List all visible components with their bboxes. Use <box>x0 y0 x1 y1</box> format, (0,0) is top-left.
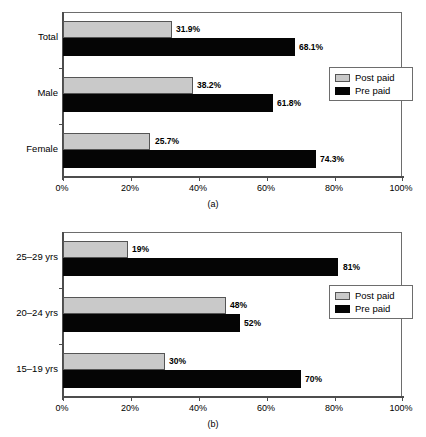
x-axis-label-b-0: 0% <box>55 404 68 413</box>
x-axis-label-b-100: 100% <box>389 404 412 413</box>
legend-item-post-paid-a[interactable]: Post paid <box>335 72 406 83</box>
x-axis-tick-b-60 <box>267 397 268 401</box>
plot-area-a: 31.9% 68.1% 38.2% 61.8% 25.7% 74.3% Post… <box>62 12 402 178</box>
x-axis-label-b-80: 80% <box>325 404 343 413</box>
category-label-15-19-yrs: 15–19 yrs <box>0 364 58 374</box>
category-label-total: Total <box>0 32 58 42</box>
bar-female-post-paid[interactable] <box>63 133 150 150</box>
x-axis-label-b-60: 60% <box>257 404 275 413</box>
chart-figure-b: 19% 81% 48% 52% 30% 70% Post paid <box>0 220 426 437</box>
x-axis-label-a-80: 80% <box>325 184 343 193</box>
pre-paid-swatch-icon <box>335 87 350 95</box>
y-axis-tick-a-2 <box>59 124 63 125</box>
category-label-female: Female <box>0 144 58 154</box>
bar-value-20-24-yrs-post-paid: 48% <box>230 301 247 310</box>
legend-label-pre-paid-a: Pre paid <box>355 86 390 96</box>
x-axis-tick-b-0 <box>63 397 64 401</box>
x-axis-tick-a-100 <box>402 177 403 181</box>
bar-value-15-19-yrs-post-paid: 30% <box>169 357 186 366</box>
x-axis-tick-b-80 <box>335 397 336 401</box>
bar-value-female-post-paid: 25.7% <box>155 137 179 146</box>
legend-label-post-paid-a: Post paid <box>355 73 395 83</box>
x-axis-label-a-0: 0% <box>55 184 68 193</box>
bar-15-19-yrs-post-paid[interactable] <box>63 353 165 370</box>
category-label-male: Male <box>0 88 58 98</box>
post-paid-swatch-icon <box>335 74 350 82</box>
x-axis-label-b-40: 40% <box>189 404 207 413</box>
y-axis-tick-b-2 <box>59 344 63 345</box>
bar-20-24-yrs-post-paid[interactable] <box>63 297 226 314</box>
legend-item-pre-paid-a[interactable]: Pre paid <box>335 85 406 96</box>
x-axis-tick-a-20 <box>131 177 132 181</box>
legend-a: Post paid Pre paid <box>329 67 413 101</box>
category-label-20-24-yrs: 20–24 yrs <box>0 308 58 318</box>
x-axis-label-a-40: 40% <box>189 184 207 193</box>
x-axis-tick-a-80 <box>335 177 336 181</box>
bar-value-total-pre-paid: 68.1% <box>299 43 323 52</box>
x-axis-label-a-60: 60% <box>257 184 275 193</box>
pre-paid-swatch-icon <box>335 305 350 313</box>
chart-figure-a: 31.9% 68.1% 38.2% 61.8% 25.7% 74.3% Post… <box>0 0 426 212</box>
legend-item-pre-paid-b[interactable]: Pre paid <box>335 303 406 314</box>
bar-25-29-yrs-post-paid[interactable] <box>63 241 128 258</box>
x-axis-label-a-20: 20% <box>121 184 139 193</box>
bar-male-post-paid[interactable] <box>63 77 193 94</box>
bar-25-29-yrs-pre-paid[interactable] <box>63 258 338 276</box>
bar-20-24-yrs-pre-paid[interactable] <box>63 314 240 332</box>
bar-total-pre-paid[interactable] <box>63 38 295 56</box>
plot-area-b: 19% 81% 48% 52% 30% 70% Post paid <box>62 232 402 398</box>
x-axis-label-a-100: 100% <box>389 184 412 193</box>
bar-value-15-19-yrs-pre-paid: 70% <box>305 375 322 384</box>
bar-value-25-29-yrs-post-paid: 19% <box>132 245 149 254</box>
bar-value-total-post-paid: 31.9% <box>176 25 200 34</box>
bar-male-pre-paid[interactable] <box>63 94 273 112</box>
bar-value-male-pre-paid: 61.8% <box>277 99 301 108</box>
x-axis-tick-b-100 <box>402 397 403 401</box>
y-axis-tick-b-1 <box>59 288 63 289</box>
legend-label-pre-paid-b: Pre paid <box>355 304 390 314</box>
x-axis-tick-b-40 <box>199 397 200 401</box>
bar-value-25-29-yrs-pre-paid: 81% <box>343 263 360 272</box>
x-axis-label-b-20: 20% <box>121 404 139 413</box>
figure-caption-a: (a) <box>0 200 426 209</box>
bar-15-19-yrs-pre-paid[interactable] <box>63 370 301 388</box>
bar-value-female-pre-paid: 74.3% <box>320 155 344 164</box>
x-axis-tick-b-20 <box>131 397 132 401</box>
bar-female-pre-paid[interactable] <box>63 150 316 168</box>
x-axis-line-a <box>62 176 404 178</box>
legend-label-post-paid-b: Post paid <box>355 291 395 301</box>
legend-item-post-paid-b[interactable]: Post paid <box>335 290 406 301</box>
x-axis-tick-a-60 <box>267 177 268 181</box>
x-axis-tick-a-40 <box>199 177 200 181</box>
post-paid-swatch-icon <box>335 292 350 300</box>
legend-b: Post paid Pre paid <box>329 285 413 319</box>
x-axis-tick-a-0 <box>63 177 64 181</box>
category-label-25-29-yrs: 25–29 yrs <box>0 252 58 262</box>
x-axis-line-b <box>62 396 404 398</box>
bar-value-20-24-yrs-pre-paid: 52% <box>244 319 261 328</box>
bar-value-male-post-paid: 38.2% <box>197 81 221 90</box>
bar-total-post-paid[interactable] <box>63 21 172 38</box>
figure-caption-b: (b) <box>0 420 426 429</box>
y-axis-tick-a-1 <box>59 68 63 69</box>
